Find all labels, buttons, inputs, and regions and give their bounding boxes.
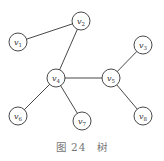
node-v5: v5: [102, 69, 120, 87]
node-v7: v7: [73, 112, 91, 130]
node-v6: v6: [9, 107, 27, 125]
edge-v1-v2: [18, 21, 81, 42]
tree-diagram: v1v2v3v4v5v6v7v8 图 24 树: [0, 0, 164, 161]
node-v4: v4: [47, 69, 65, 87]
node-v1: v1: [9, 33, 27, 51]
tree-graph: v1v2v3v4v5v6v7v8: [0, 0, 164, 161]
figure-caption: 图 24 树: [0, 139, 164, 154]
node-v3: v3: [134, 36, 152, 54]
node-v2: v2: [72, 12, 90, 30]
node-v8: v8: [134, 107, 152, 125]
